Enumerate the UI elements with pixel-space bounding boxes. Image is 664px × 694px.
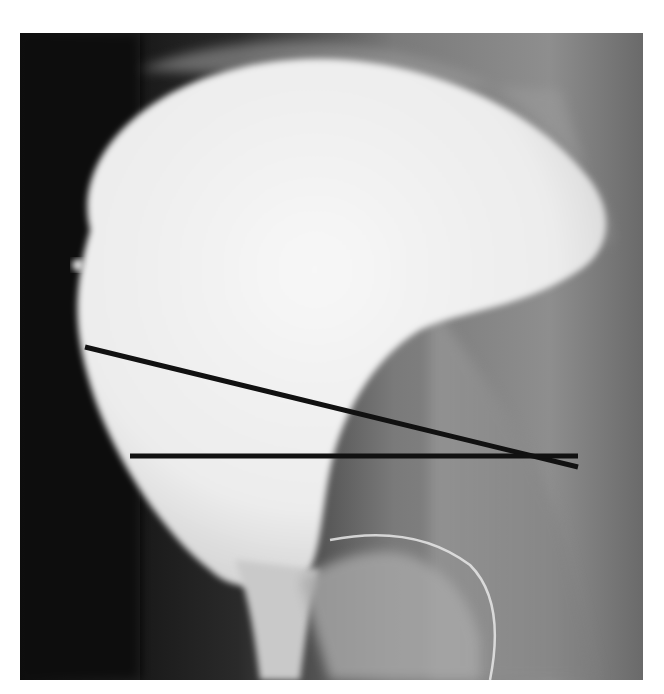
- radiograph-frame: [20, 33, 643, 680]
- radiograph-image: [20, 33, 643, 680]
- wall-bump: [72, 259, 84, 271]
